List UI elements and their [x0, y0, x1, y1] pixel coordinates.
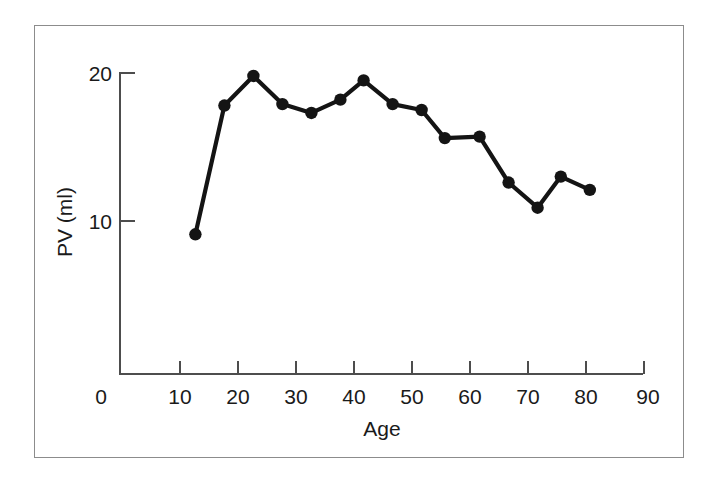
- x-tick-label-0: 0: [95, 385, 107, 408]
- x-tick-label-70: 70: [516, 385, 539, 408]
- data-point: [439, 132, 451, 144]
- x-tick-label-10: 10: [168, 385, 191, 408]
- y-tick-label-20: 20: [89, 62, 112, 85]
- data-point: [386, 98, 398, 110]
- data-point: [531, 201, 543, 213]
- data-point: [555, 170, 567, 182]
- data-point: [247, 70, 259, 82]
- data-point: [473, 130, 485, 142]
- x-tick-label-50: 50: [400, 385, 423, 408]
- data-point: [276, 98, 288, 110]
- x-tick-label-30: 30: [284, 385, 307, 408]
- x-tick-label-40: 40: [342, 385, 365, 408]
- data-point: [584, 184, 596, 196]
- x-axis-title: Age: [363, 417, 400, 440]
- data-point: [305, 107, 317, 119]
- data-point: [415, 104, 427, 116]
- data-point: [218, 99, 230, 111]
- data-point: [502, 176, 514, 188]
- y-axis-title: PV (ml): [53, 187, 76, 257]
- x-tick-marks: [180, 361, 644, 374]
- data-point: [334, 93, 346, 105]
- x-tick-label-60: 60: [458, 385, 481, 408]
- series-markers-pv: [189, 70, 596, 241]
- y-tick-label-10: 10: [89, 210, 112, 233]
- x-tick-label-90: 90: [636, 385, 659, 408]
- x-tick-label-80: 80: [574, 385, 597, 408]
- chart-canvas: 20 10 0 10 20 30 40 50 60 70 80 90 Age P…: [0, 0, 715, 483]
- data-point: [357, 74, 369, 86]
- data-point: [189, 228, 201, 240]
- y-tick-marks: [120, 73, 135, 221]
- x-tick-label-20: 20: [226, 385, 249, 408]
